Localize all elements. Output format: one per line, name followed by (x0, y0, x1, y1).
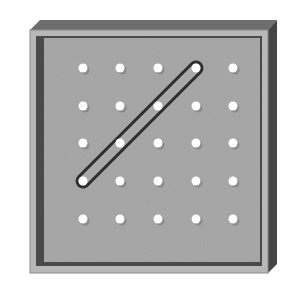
peg[interactable] (229, 102, 238, 111)
peg[interactable] (79, 64, 88, 73)
board-top-bevel (30, 20, 277, 30)
peg[interactable] (192, 64, 201, 73)
board-face (44, 38, 260, 262)
peg[interactable] (154, 139, 163, 148)
peg[interactable] (154, 64, 163, 73)
peg[interactable] (192, 177, 201, 186)
peg[interactable] (116, 102, 125, 111)
peg[interactable] (79, 139, 88, 148)
peg[interactable] (116, 139, 125, 148)
peg[interactable] (79, 215, 88, 224)
peg[interactable] (116, 177, 125, 186)
peg[interactable] (229, 139, 238, 148)
peg[interactable] (116, 64, 125, 73)
peg[interactable] (79, 177, 88, 186)
peg[interactable] (192, 139, 201, 148)
peg[interactable] (229, 64, 238, 73)
geoboard (0, 0, 282, 286)
peg[interactable] (154, 215, 163, 224)
peg[interactable] (229, 215, 238, 224)
peg[interactable] (192, 102, 201, 111)
peg[interactable] (229, 177, 238, 186)
board-right-side (268, 20, 277, 273)
peg[interactable] (154, 102, 163, 111)
peg[interactable] (79, 102, 88, 111)
peg[interactable] (154, 177, 163, 186)
peg[interactable] (116, 215, 125, 224)
peg[interactable] (192, 215, 201, 224)
